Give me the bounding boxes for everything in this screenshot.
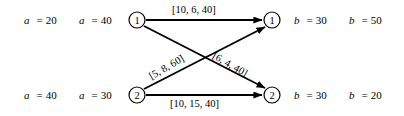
supply-var-a-1-2: a	[79, 15, 85, 26]
node-label-source-2: 2	[130, 91, 144, 102]
node-label-sink-2: 2	[265, 91, 279, 102]
demand-label-b-2-2: b=20	[349, 90, 382, 101]
supply-var-a-2-1: a	[24, 90, 30, 101]
node-label-sink-1: 1	[265, 16, 279, 27]
supply-value-a-1-1: 20	[46, 14, 57, 26]
demand-value-b-2-1: 30	[316, 89, 327, 101]
supply-label-a-1-2: a=40	[79, 15, 112, 26]
edge-label-s2-t2: [10, 15, 40]	[170, 99, 219, 110]
demand-eq-b-1-2: =	[362, 14, 368, 26]
network-diagram-canvas: 1 2 1 2 [10, 6, 40] [10, 15, 40] [5, 8, …	[0, 0, 404, 116]
demand-eq-b-2-1: =	[307, 89, 313, 101]
demand-var-b-1-1: b	[294, 15, 300, 26]
supply-value-a-1-2: 40	[101, 14, 112, 26]
supply-var-a-2-2: a	[79, 90, 85, 101]
supply-value-a-2-1: 40	[46, 89, 57, 101]
supply-eq-a-2-1: =	[37, 89, 43, 101]
demand-var-b-1-2: b	[349, 15, 355, 26]
demand-eq-b-1-1: =	[307, 14, 313, 26]
node-label-source-1: 1	[130, 16, 144, 27]
supply-value-a-2-2: 30	[101, 89, 112, 101]
demand-value-b-1-1: 30	[316, 14, 327, 26]
supply-eq-a-1-1: =	[37, 14, 43, 26]
supply-eq-a-2-2: =	[92, 89, 98, 101]
demand-eq-b-2-2: =	[362, 89, 368, 101]
demand-value-b-1-2: 50	[371, 14, 382, 26]
supply-label-a-1-1: a=20	[24, 15, 57, 26]
demand-label-b-1-1: b=30	[294, 15, 327, 26]
demand-label-b-1-2: b=50	[349, 15, 382, 26]
demand-value-b-2-2: 20	[371, 89, 382, 101]
supply-label-a-2-2: a=30	[79, 90, 112, 101]
supply-var-a-1-1: a	[24, 15, 30, 26]
demand-var-b-2-2: b	[349, 90, 355, 101]
demand-var-b-2-1: b	[294, 90, 300, 101]
supply-label-a-2-1: a=40	[24, 90, 57, 101]
supply-eq-a-1-2: =	[92, 14, 98, 26]
edge-label-s1-t1: [10, 6, 40]	[172, 5, 216, 16]
demand-label-b-2-1: b=30	[294, 90, 327, 101]
